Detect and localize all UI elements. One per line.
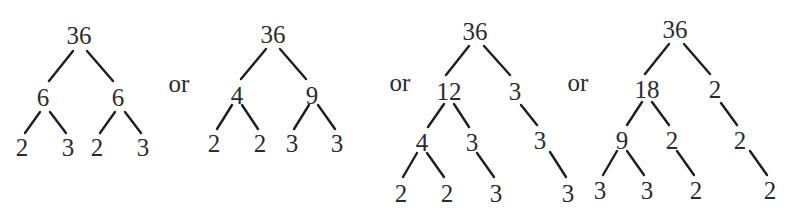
or-separator: or — [169, 70, 191, 97]
tree-node-value: 2 — [441, 180, 454, 207]
tree-edge — [318, 105, 335, 129]
tree-edge — [550, 152, 566, 177]
tree-edge — [645, 44, 669, 74]
tree-node-value: 3 — [286, 130, 299, 157]
tree-node-value: 3 — [490, 180, 503, 207]
tree-root-value: 36 — [463, 18, 488, 45]
tree-edge — [87, 51, 113, 81]
tree-node-value: 2 — [690, 177, 703, 204]
tree-edge — [49, 51, 73, 81]
tree-node-value: 3 — [641, 177, 654, 204]
tree-12x3: 361234332233 — [395, 18, 575, 207]
tree-edge — [280, 49, 306, 79]
tree-node-value: 3 — [594, 177, 607, 204]
tree-node-value: 3 — [509, 78, 522, 105]
tree-edge — [750, 151, 767, 175]
tree-node-value: 2 — [16, 134, 29, 161]
tree-edge — [521, 105, 537, 125]
tree-node-value: 6 — [37, 84, 50, 111]
tree-18x2: 361829223322 — [594, 16, 777, 204]
tree-edge — [684, 44, 710, 74]
tree-edge — [627, 102, 642, 125]
tree-node-value: 9 — [616, 127, 629, 154]
tree-edge — [484, 46, 510, 75]
tree-edge — [427, 153, 444, 177]
tree-root-value: 36 — [663, 16, 688, 43]
tree-edge — [294, 105, 309, 129]
tree-node-value: 2 — [395, 180, 408, 207]
tree-node-value: 2 — [254, 130, 267, 157]
tree-node-value: 12 — [437, 78, 462, 105]
tree-node-value: 2 — [91, 134, 104, 161]
tree-edge — [477, 153, 494, 177]
tree-node-value: 2 — [764, 177, 777, 204]
tree-edge — [454, 104, 469, 127]
tree-edge — [100, 112, 115, 133]
tree-6x6: 36662323 — [16, 22, 150, 161]
tree-root-value: 36 — [67, 22, 92, 49]
tree-edge — [125, 112, 141, 133]
tree-edge — [50, 112, 66, 133]
tree-edge — [428, 104, 444, 127]
tree-node-value: 2 — [734, 127, 747, 154]
tree-node-value: 2 — [208, 130, 221, 157]
factor-trees-diagram: 3666232336492233361234332233361829223322… — [0, 0, 794, 214]
tree-node-value: 3 — [534, 127, 547, 154]
tree-edge — [603, 151, 617, 175]
tree-edge — [721, 103, 737, 125]
tree-node-value: 2 — [709, 76, 722, 103]
tree-edge — [217, 105, 232, 129]
tree-node-value: 18 — [635, 76, 660, 103]
tree-edge — [241, 49, 266, 79]
tree-edge — [25, 112, 40, 133]
tree-node-value: 3 — [562, 180, 575, 207]
tree-node-value: 3 — [331, 130, 344, 157]
tree-node-value: 9 — [306, 82, 319, 109]
or-separator: or — [390, 69, 412, 96]
tree-node-value: 4 — [231, 82, 244, 109]
tree-node-value: 2 — [666, 127, 679, 154]
tree-edge — [652, 102, 669, 125]
tree-edge — [242, 105, 258, 129]
tree-4x9: 36492233 — [208, 21, 344, 157]
tree-root-value: 36 — [261, 21, 286, 48]
tree-node-value: 3 — [62, 134, 75, 161]
tree-edge — [403, 153, 417, 177]
tree-node-value: 4 — [416, 129, 429, 156]
tree-edge — [677, 151, 694, 175]
tree-edge — [627, 151, 644, 175]
tree-node-value: 6 — [112, 84, 125, 111]
tree-edge — [446, 46, 469, 75]
tree-node-value: 3 — [466, 129, 479, 156]
tree-node-value: 3 — [137, 134, 150, 161]
or-separator: or — [568, 69, 590, 96]
